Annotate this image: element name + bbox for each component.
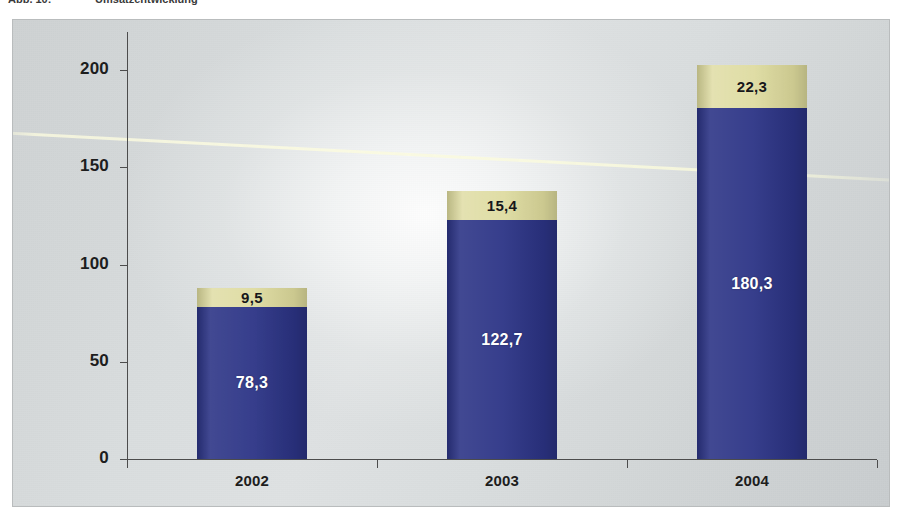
y-tick-label: 200 (80, 59, 109, 79)
bar-column-2002[interactable]: 78,39,5 (197, 288, 307, 459)
x-axis-line (127, 459, 877, 460)
y-axis-line (127, 32, 128, 460)
y-tick-label: 0 (99, 448, 109, 468)
x-tick-mark (627, 460, 628, 468)
y-tick-label: 50 (90, 351, 109, 371)
figure-caption: Abb. 10: Umsatzentwicklung (0, 0, 902, 14)
bar-value-label-top-2003: 15,4 (487, 197, 517, 214)
x-tick-mark (377, 460, 378, 468)
bar-segment-base-2002[interactable]: 78,3 (197, 307, 307, 459)
figure-number: Abb. 10: (0, 0, 92, 5)
bar-segment-top-2003[interactable]: 15,4 (447, 191, 557, 221)
bar-segment-top-2004[interactable]: 22,3 (697, 65, 807, 108)
y-tick-label: 150 (80, 156, 109, 176)
y-tick-mark (120, 70, 128, 71)
bar-column-2003[interactable]: 122,715,4 (447, 191, 557, 459)
bar-value-label-base-2002: 78,3 (236, 374, 268, 392)
plot-area: 050100150200 200220032004 78,39,5122,715… (13, 20, 890, 507)
x-tick-mark (127, 460, 128, 468)
y-tick-mark (120, 167, 128, 168)
chart-panel: 050100150200 200220032004 78,39,5122,715… (12, 19, 890, 507)
bar-value-label-base-2004: 180,3 (731, 275, 773, 293)
bar-segment-base-2003[interactable]: 122,7 (447, 220, 557, 459)
x-tick-mark (877, 460, 878, 468)
x-tick-label-2002: 2002 (192, 472, 312, 489)
x-tick-label-2003: 2003 (442, 472, 562, 489)
bar-segment-base-2004[interactable]: 180,3 (697, 108, 807, 459)
y-tick-mark (120, 265, 128, 266)
y-tick-label: 100 (80, 254, 109, 274)
bar-value-label-top-2002: 9,5 (241, 289, 263, 306)
figure-title: Umsatzentwicklung (95, 0, 198, 5)
bar-value-label-base-2003: 122,7 (481, 331, 523, 349)
x-tick-label-2004: 2004 (692, 472, 812, 489)
bar-value-label-top-2004: 22,3 (737, 78, 767, 95)
bar-segment-top-2002[interactable]: 9,5 (197, 288, 307, 306)
y-tick-mark (120, 362, 128, 363)
bar-column-2004[interactable]: 180,322,3 (697, 65, 807, 459)
